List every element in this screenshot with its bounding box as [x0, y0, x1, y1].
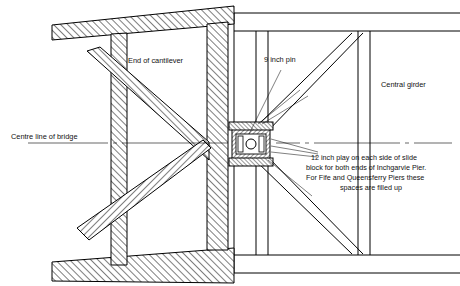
label-nine-inch-pin: 9 inch pin: [264, 55, 296, 64]
central-girder-bottom-chord: [234, 255, 460, 273]
nine-inch-pin: [246, 139, 256, 149]
slide-block-cap-bottom: [229, 158, 273, 166]
label-end-of-cantilever: End of cantilever: [128, 56, 184, 65]
slide-block-note-line-4: spaces are filled up: [340, 183, 402, 192]
label-centre-line-of-bridge: Centre line of bridge: [11, 132, 78, 141]
slide-block-note-line-2: block for both ends of Inchgarvie Pier.: [306, 163, 426, 172]
bridge-joint-diagram: End of cantilever Centre line of bridge …: [0, 0, 460, 286]
slide-block-note-line-3: For Fife and Queensferry Piers these: [306, 173, 424, 182]
slide-block-play-gap-left: [238, 136, 243, 152]
central-girder-top-chord: [234, 13, 460, 31]
slide-block-play-gap-right: [259, 136, 264, 152]
slide-block-assembly: [229, 122, 273, 166]
slide-block-note-line-1: 12 inch play on each side of slide: [311, 153, 417, 162]
cantilever-outer-post: [207, 22, 228, 250]
slide-block-cap-top: [229, 122, 273, 130]
label-central-girder: Central girder: [381, 80, 426, 89]
